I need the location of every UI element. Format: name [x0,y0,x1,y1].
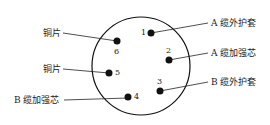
pin-number-4: 4 [134,92,139,101]
pin-1-label: A 缆外护套 [211,18,256,28]
pin-2-dot [166,57,173,64]
pin-1-dot [148,30,155,37]
pin-4-label: B 缆加强芯 [14,95,59,105]
leader-line-1 [151,23,208,33]
pin-3-label: B 缆外护套 [211,77,256,87]
pin-5-dot [106,70,113,77]
pin-4-dot [125,94,132,101]
pin-number-1: 1 [141,28,146,37]
leader-line-6 [63,33,117,41]
pin-number-6: 6 [114,47,119,56]
pin-5-label: 铜片 [43,64,61,74]
leader-line-4 [64,98,128,100]
pin-number-2: 2 [166,46,171,55]
pin-number-3: 3 [157,77,162,86]
pin-3-dot [157,88,164,95]
pin-6-label: 铜片 [43,28,61,38]
pin-6-dot [114,38,121,45]
pin-2-label: A 缆加强芯 [211,48,256,58]
leader-line-5 [63,69,109,73]
pin-number-5: 5 [115,68,120,77]
